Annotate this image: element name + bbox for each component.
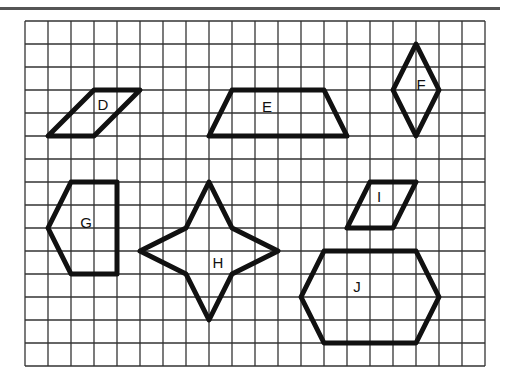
- shape-label-g: G: [80, 214, 92, 231]
- shape-label-h: H: [213, 254, 224, 271]
- shapes-diagram: DEFGHIJ: [0, 0, 506, 383]
- shape-label-i: I: [377, 188, 381, 205]
- grid: [25, 21, 485, 366]
- shape-label-d: D: [98, 96, 109, 113]
- shape-label-f: F: [416, 76, 425, 93]
- shape-label-j: J: [353, 278, 361, 295]
- shape-label-e: E: [262, 98, 272, 115]
